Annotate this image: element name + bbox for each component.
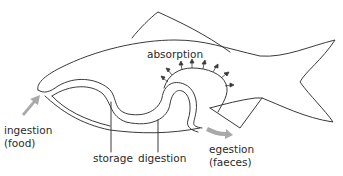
ingestion-sublabel: (food) [4,137,35,150]
dorsal-fin [132,12,230,52]
egestion-arrow [206,127,233,139]
gut-lower-inner [52,96,110,126]
gut-inner [52,87,198,132]
body-lower [45,96,200,133]
ingestion-arrow [22,95,40,116]
fish-outline-drawing [0,0,343,176]
absorption-arrows [161,59,234,87]
absorption-arc [164,68,227,112]
anal-fin [210,98,262,128]
egestion-sublabel: (faeces) [209,156,252,169]
fish-digestion-diagram: absorption ingestion (food) storage dige… [0,0,343,176]
gut-outer [38,79,202,128]
egestion-label: egestion [209,143,254,156]
digestion-label: digestion [138,152,186,165]
storage-label: storage [93,152,133,165]
ingestion-label: ingestion [4,124,52,137]
absorption-label: absorption [147,48,203,61]
